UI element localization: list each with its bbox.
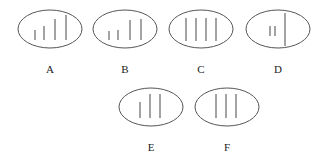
panel-f: F — [195, 88, 259, 153]
panel-b: B — [93, 10, 157, 75]
oval-outline — [18, 10, 82, 48]
panel-d: D — [246, 10, 310, 75]
panel-label: E — [148, 141, 155, 153]
oval-outline — [246, 10, 310, 48]
panel-a: A — [18, 10, 82, 75]
panel-label: D — [274, 63, 282, 75]
oval-outline — [93, 10, 157, 48]
panel-label: A — [46, 63, 54, 75]
oval-outline — [119, 88, 183, 126]
line-oval-figure: ABCDEF — [0, 0, 321, 157]
panel-label: F — [224, 141, 230, 153]
oval-outline — [169, 10, 233, 48]
panel-label: C — [197, 63, 204, 75]
panel-e: E — [119, 88, 183, 153]
panel-c: C — [169, 10, 233, 75]
oval-outline — [195, 88, 259, 126]
panel-label: B — [121, 63, 128, 75]
